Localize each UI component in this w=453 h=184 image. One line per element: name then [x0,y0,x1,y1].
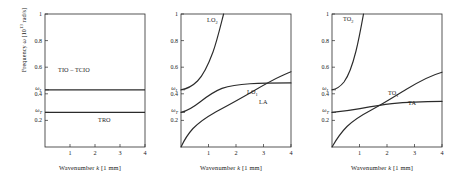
omega-L-tick: ωL [311,85,329,93]
y-tick-0.2: 0.2 [20,117,42,123]
tro-branch-label: TRO [98,116,111,123]
x-tick-3: 3 [407,149,423,156]
y-tick-1: 1 [20,11,42,17]
lo1-branch-label: LO1 [247,88,258,97]
x-tick-3: 3 [256,149,272,156]
x-tick-2: 2 [87,149,103,156]
y-tick-0.8: 0.8 [307,38,329,44]
y-tick-0.6: 0.6 [20,64,42,70]
x-axis-label: Wavenumber k [1 mm] [317,164,447,171]
y-tick-0.8: 0.8 [156,38,178,44]
omega-L-tick: ωL [24,85,42,93]
y-tick-1: 1 [156,11,178,17]
y-tick-0.2: 0.2 [156,117,178,123]
x-axis-label: Wavenumber k [1 mm] [166,164,296,171]
x-tick-4: 4 [283,149,299,156]
panel-1: Frequency ω [1013 rad/s] [0,0,151,184]
y-tick-0.6: 0.6 [156,64,178,70]
lo2-branch-label: LO2 [207,16,218,25]
x-tick-1: 1 [201,149,217,156]
panel-2: 1 0.8 0.6 0.4 0.2 ωL ωT 1 2 3 4 LO2 LO1 … [151,0,302,184]
ta-branch-label: TA [408,99,416,106]
to1-branch-label: TO1 [388,89,399,98]
to2-branch-label: TO2 [343,15,354,24]
phonon-dispersion-figure: Frequency ω [1013 rad/s] [0,0,453,184]
x-axis-label: Wavenumber k [1 mm] [25,164,155,171]
y-tick-0.6: 0.6 [307,64,329,70]
to-lo-branch-label: TIO – TCIO [58,66,90,73]
x-tick-3: 3 [112,149,128,156]
omega-T-tick: ωT [160,107,178,115]
x-tick-4: 4 [434,149,450,156]
x-tick-1: 1 [352,149,368,156]
y-tick-0.8: 0.8 [20,38,42,44]
y-tick-1: 1 [307,11,329,17]
x-tick-1: 1 [62,149,78,156]
omega-T-tick: ωT [24,107,42,115]
omega-L-tick: ωL [160,85,178,93]
x-tick-2: 2 [228,149,244,156]
la-branch-label: LA [259,98,267,105]
panel-3: 1 0.8 0.6 0.4 0.2 ωL ωT 1 2 3 4 TO2 TO1 … [302,0,453,184]
y-tick-0.2: 0.2 [307,117,329,123]
x-tick-2: 2 [379,149,395,156]
omega-T-tick: ωT [311,107,329,115]
